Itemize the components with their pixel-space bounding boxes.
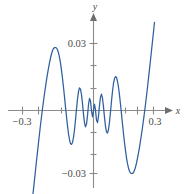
x-tick-label-right: 0.3 xyxy=(148,116,161,127)
y-tick-label-top: 0.03 xyxy=(68,38,86,49)
y-axis-name: y xyxy=(92,1,98,12)
y-axis-arrow-icon xyxy=(90,13,97,21)
x-axis-name: x xyxy=(175,105,181,116)
plot-figure: −0.3 0.3 0.03 −0.03 x y xyxy=(0,0,188,194)
x-axis-arrow-icon xyxy=(165,107,173,114)
x-tick-label-left: −0.3 xyxy=(12,116,31,127)
cartesian-plot: −0.3 0.3 0.03 −0.03 x y xyxy=(0,0,188,194)
y-tick-label-bottom: −0.03 xyxy=(62,168,86,179)
